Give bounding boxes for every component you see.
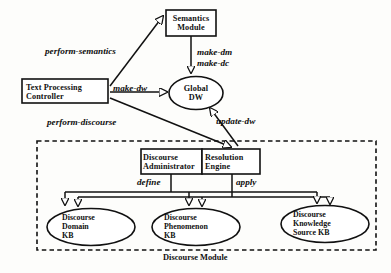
text-processing-controller-box bbox=[22, 79, 108, 103]
discourse-knowledge-source-kb-ellipse bbox=[281, 206, 369, 243]
discourse-administrator-box bbox=[141, 149, 202, 174]
discourse-phenomenon-kb-ellipse bbox=[152, 209, 240, 246]
semantics-module-box bbox=[166, 10, 216, 36]
discourse-module-diagram: Semantics Module Text Processing Control… bbox=[0, 0, 391, 273]
edge-perform-semantics bbox=[110, 16, 163, 86]
discourse-domain-kb-ellipse bbox=[47, 209, 135, 246]
diagram-canvas bbox=[0, 0, 391, 273]
global-dw-ellipse bbox=[169, 77, 223, 110]
resolution-engine-box bbox=[202, 149, 260, 174]
